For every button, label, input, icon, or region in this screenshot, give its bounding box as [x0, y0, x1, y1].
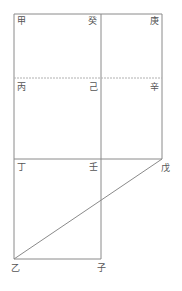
diagram-canvas [0, 0, 182, 291]
label-bing: 丙 [17, 82, 26, 92]
label-jia: 甲 [17, 16, 26, 26]
label-yi: 乙 [11, 263, 20, 273]
label-wu: 戊 [161, 163, 170, 173]
label-geng: 庚 [150, 16, 159, 26]
label-gui: 癸 [88, 16, 97, 26]
label-ding: 丁 [17, 162, 26, 172]
label-ji: 己 [89, 82, 98, 92]
label-zi: 子 [97, 263, 106, 273]
label-xin: 辛 [150, 82, 159, 92]
diagonal-line [14, 159, 162, 259]
label-ren: 壬 [89, 162, 98, 172]
